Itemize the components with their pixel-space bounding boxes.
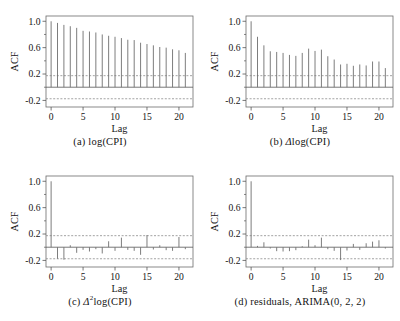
y-tick-label: 1.0 xyxy=(29,176,41,187)
y-tick-label: 0.2 xyxy=(229,228,241,239)
x-tick-label: 20 xyxy=(174,111,184,122)
panel-caption-d: (d) residuals, ARIMA(0, 2, 2) xyxy=(200,294,400,307)
x-tick-label: 0 xyxy=(49,111,54,122)
caption-text-a: log(CPI) xyxy=(88,136,126,147)
caption-prefix-a: (a) xyxy=(73,136,85,147)
y-tick-label: -0.2 xyxy=(225,255,240,266)
y-tick-label: 1.0 xyxy=(229,16,241,27)
y-axis-title: ACF xyxy=(9,211,20,231)
panel-caption-a: (a) log(CPI) xyxy=(0,134,200,147)
acf-plot-b: -0.20.20.61.005101520LagACF xyxy=(200,0,400,135)
x-tick-label: 15 xyxy=(342,271,352,282)
x-tick-label: 10 xyxy=(110,111,120,122)
x-tick-label: 10 xyxy=(310,111,320,122)
x-axis-title: Lag xyxy=(112,123,128,134)
y-tick-label: -0.2 xyxy=(25,95,40,106)
panel-a: -0.20.20.61.005101520LagACF (a) log(CPI) xyxy=(0,0,200,160)
y-tick-label: -0.2 xyxy=(225,95,240,106)
x-tick-label: 5 xyxy=(81,111,86,122)
acf-svg-c: -0.20.20.61.005101520LagACF xyxy=(0,160,200,295)
x-tick-label: 0 xyxy=(49,271,54,282)
acf-plot-a: -0.20.20.61.005101520LagACF xyxy=(0,0,200,135)
y-tick-label: -0.2 xyxy=(25,255,40,266)
y-tick-label: 0.6 xyxy=(29,202,41,213)
y-axis-title: ACF xyxy=(209,211,220,231)
x-axis-title: Lag xyxy=(312,123,328,134)
acf-svg-b: -0.20.20.61.005101520LagACF xyxy=(200,0,400,135)
panel-d: -0.20.20.61.005101520LagACF (d) residual… xyxy=(200,160,400,321)
x-tick-label: 15 xyxy=(342,111,352,122)
caption-prefix-c: (c) xyxy=(68,296,80,307)
acf-plot-d: -0.20.20.61.005101520LagACF xyxy=(200,160,400,295)
x-tick-label: 10 xyxy=(310,271,320,282)
x-tick-label: 5 xyxy=(281,271,286,282)
x-tick-label: 5 xyxy=(281,111,286,122)
caption-text-c: log(CPI) xyxy=(93,296,131,307)
x-axis-title: Lag xyxy=(312,283,328,294)
y-tick-label: 0.6 xyxy=(229,202,241,213)
x-tick-label: 20 xyxy=(374,111,384,122)
x-tick-label: 20 xyxy=(374,271,384,282)
x-axis-title: Lag xyxy=(112,283,128,294)
caption-prefix-b: (b) xyxy=(270,136,283,147)
acf-plot-c: -0.20.20.61.005101520LagACF xyxy=(0,160,200,295)
acf-svg-d: -0.20.20.61.005101520LagACF xyxy=(200,160,400,295)
y-tick-label: 0.2 xyxy=(29,68,41,79)
x-tick-label: 5 xyxy=(81,271,86,282)
y-tick-label: 1.0 xyxy=(229,176,241,187)
acf-figure-grid: -0.20.20.61.005101520LagACF (a) log(CPI)… xyxy=(0,0,400,321)
y-tick-label: 0.6 xyxy=(29,42,41,53)
caption-text-d: residuals, ARIMA(0, 2, 2) xyxy=(250,296,365,307)
caption-text-b: log(CPI) xyxy=(292,136,330,147)
y-axis-title: ACF xyxy=(209,51,220,71)
x-tick-label: 20 xyxy=(174,271,184,282)
x-tick-label: 0 xyxy=(249,271,254,282)
y-tick-label: 0.6 xyxy=(229,42,241,53)
x-tick-label: 15 xyxy=(142,111,152,122)
y-tick-label: 1.0 xyxy=(29,16,41,27)
x-tick-label: 10 xyxy=(110,271,120,282)
y-axis-title: ACF xyxy=(9,51,20,71)
y-tick-label: 0.2 xyxy=(229,68,241,79)
panel-c: -0.20.20.61.005101520LagACF (c) Δ2log(CP… xyxy=(0,160,200,321)
y-tick-label: 0.2 xyxy=(29,228,41,239)
x-tick-label: 0 xyxy=(249,111,254,122)
panel-b: -0.20.20.61.005101520LagACF (b) Δlog(CPI… xyxy=(200,0,400,160)
caption-prefix-d: (d) xyxy=(235,296,248,307)
acf-svg-a: -0.20.20.61.005101520LagACF xyxy=(0,0,200,135)
panel-caption-c: (c) Δ2log(CPI) xyxy=(0,294,200,307)
panel-caption-b: (b) Δlog(CPI) xyxy=(200,134,400,147)
x-tick-label: 15 xyxy=(142,271,152,282)
